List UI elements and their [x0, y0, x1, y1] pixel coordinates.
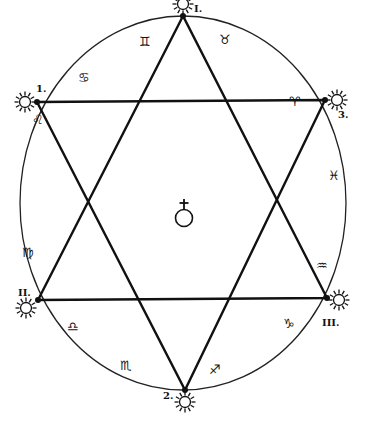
- sagittarius-icon: ♐︎: [209, 363, 221, 376]
- sun-icon: [16, 297, 42, 319]
- hexagram-diagram: I.1.3.II.III.2. ♊︎♉︎♋︎♈︎♌︎♓︎♍︎♒︎♎︎♑︎♏︎♐︎: [0, 0, 367, 429]
- upward-triangle: [38, 16, 327, 300]
- aquarius-icon: ♒︎: [316, 259, 328, 272]
- earth-cross-icon: [176, 199, 193, 227]
- capricorn-icon: ♑︎: [283, 317, 295, 330]
- vertex-label: II.: [18, 288, 31, 298]
- diagram-canvas: [0, 0, 367, 429]
- downward-triangle: [37, 100, 325, 390]
- cancer-icon: ♋︎: [78, 71, 90, 84]
- vertex-label: 2.: [163, 391, 173, 401]
- pisces-icon: ♓︎: [328, 169, 340, 182]
- gemini-icon: ♊︎: [139, 35, 151, 48]
- sun-icon: [15, 92, 41, 113]
- leo-icon: ♌︎: [32, 113, 44, 126]
- sun-icon: [322, 90, 348, 111]
- taurus-icon: ♉︎: [219, 33, 231, 46]
- aries-icon: ♈︎: [289, 95, 301, 108]
- vertex-label: III.: [322, 318, 340, 328]
- sun-icon: [175, 387, 196, 413]
- libra-icon: ♎︎: [67, 320, 79, 333]
- sun-markers: [15, 0, 350, 413]
- scorpio-icon: ♏︎: [120, 359, 132, 372]
- vertex-label: I.: [194, 4, 202, 14]
- vertex-label: 3.: [338, 110, 348, 120]
- sun-icon: [324, 290, 350, 311]
- vertex-label: 1.: [36, 84, 46, 94]
- virgo-icon: ♍︎: [22, 246, 34, 259]
